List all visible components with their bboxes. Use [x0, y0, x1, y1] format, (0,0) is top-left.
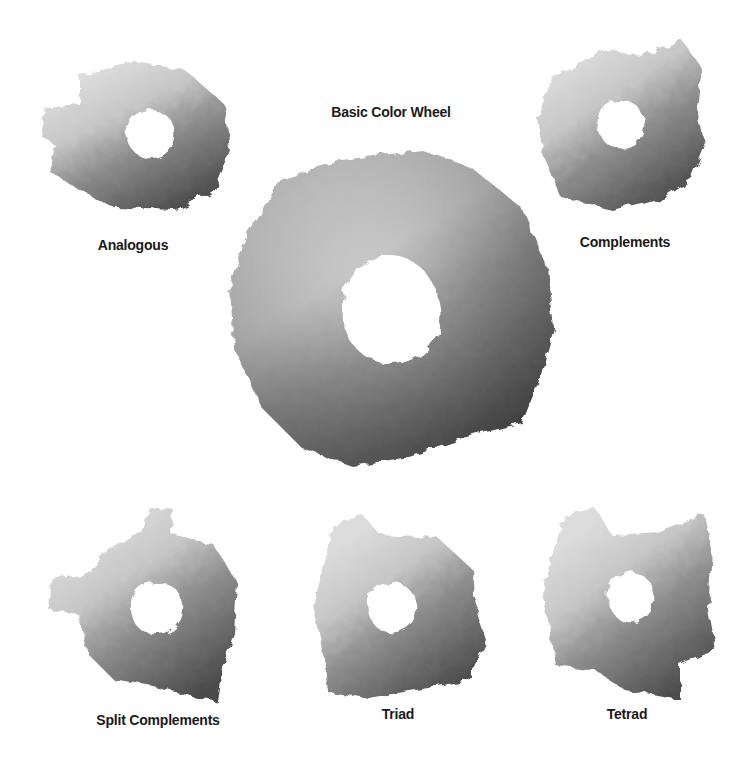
- tetrad-label: Tetrad: [607, 706, 648, 722]
- tetrad-wheel: [540, 500, 720, 700]
- analogous-wheel: [35, 60, 235, 220]
- split-complements-label: Split Complements: [96, 712, 219, 728]
- complements-wheel: [532, 38, 708, 214]
- analogous-label: Analogous: [98, 237, 169, 253]
- main-wheel-title: Basic Color Wheel: [331, 104, 451, 120]
- complements-label: Complements: [580, 234, 670, 250]
- triad-wheel: [308, 510, 488, 700]
- triad-label: Triad: [382, 706, 414, 722]
- basic-color-wheel: [222, 138, 558, 470]
- split-complements-wheel: [43, 504, 243, 704]
